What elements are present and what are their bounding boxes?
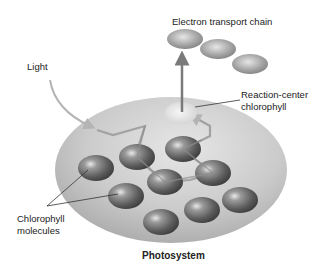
chlorophyll-molecule xyxy=(143,209,179,235)
reaction-center-label-line1: Reaction-center xyxy=(241,89,308,101)
chlorophyll-molecule xyxy=(78,155,114,181)
chlorophyll-label-line1: Chlorophyll xyxy=(17,213,65,225)
electron-carrier xyxy=(167,29,203,49)
light-arrow xyxy=(50,80,90,126)
light-label: Light xyxy=(27,61,48,73)
chlorophyll-molecule xyxy=(184,197,220,223)
reaction-center-label-line2: chlorophyll xyxy=(241,101,286,113)
electron-carrier xyxy=(232,54,268,74)
chlorophyll-molecule xyxy=(108,183,144,209)
electron-carrier xyxy=(200,39,236,59)
photosystem-label: Photosystem xyxy=(142,250,205,262)
electron-transport-chain-label: Electron transport chain xyxy=(172,16,272,28)
chlorophyll-label-line2: molecules xyxy=(17,225,60,237)
chlorophyll-molecule xyxy=(222,187,258,213)
